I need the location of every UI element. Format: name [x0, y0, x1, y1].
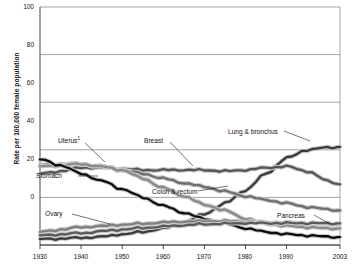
cancer-mortality-trend-chart: Rate per 100,000 female population 100 8… — [0, 0, 357, 269]
series-label-ovary: Ovary — [45, 210, 63, 217]
uterus-footnote-marker: 1 — [77, 136, 80, 141]
series-label-pancreas: Pancreas — [277, 212, 305, 219]
leader-lung — [284, 131, 310, 141]
series-label-stomach: Stomach — [36, 172, 62, 179]
series-label-lung-bronchus: Lung & bronchus — [228, 128, 278, 135]
series-label-colon-rectum: Colon & rectum — [152, 188, 197, 195]
leader-uterus — [85, 143, 105, 162]
series-label-uterus-text: Uterus — [58, 137, 77, 144]
series-label-uterus: Uterus1 — [58, 136, 80, 144]
plot-area — [0, 0, 357, 269]
leader-breast — [170, 142, 193, 166]
leader-ovary — [72, 214, 110, 224]
series-label-breast: Breast — [144, 137, 163, 144]
